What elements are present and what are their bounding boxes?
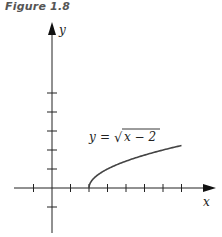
equation-radicand: x − 2 xyxy=(124,130,156,144)
sqrt-curve xyxy=(89,146,182,188)
equation-equals: = xyxy=(100,130,110,144)
y-axis-arrow-icon xyxy=(48,22,56,35)
axes xyxy=(14,22,216,233)
equation-lhs: y xyxy=(88,130,96,144)
plot-area: x y y = √ x − 2 xyxy=(0,0,222,237)
x-axis-arrow-icon xyxy=(203,184,216,192)
equation-annotation: y = √ x − 2 xyxy=(88,129,160,145)
sqrt-symbol-icon: √ xyxy=(114,130,123,145)
y-axis-label: y xyxy=(58,23,66,37)
x-axis-label: x xyxy=(203,195,210,209)
